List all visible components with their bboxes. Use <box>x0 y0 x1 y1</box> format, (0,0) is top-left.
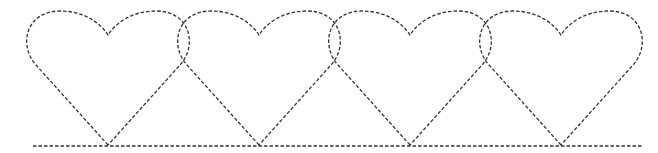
heart-shape-1 <box>27 11 190 145</box>
heart-shape-2 <box>178 11 341 145</box>
heart-shape-4 <box>480 11 643 145</box>
heart-chain-diagram <box>0 0 658 153</box>
heart-shape-3 <box>329 11 492 145</box>
